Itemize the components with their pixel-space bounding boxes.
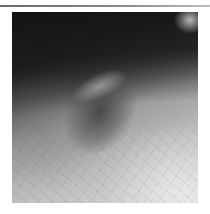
- skin-texture: [12, 12, 198, 203]
- clinical-photo: [12, 12, 198, 203]
- top-border-rule: [0, 5, 210, 7]
